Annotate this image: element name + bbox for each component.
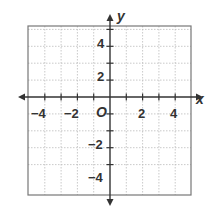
coordinate-plane: y x O −4 −2 2 4 4 2 −2 −4 [0, 0, 211, 212]
origin-label: O [96, 104, 107, 120]
x-tick-label: −4 [31, 106, 47, 121]
arrow-down-icon [107, 199, 114, 206]
y-axis-label: y [116, 8, 126, 24]
y-tick-label: −4 [88, 170, 104, 185]
x-axis-label: x [195, 91, 205, 107]
y-tick-label: 2 [97, 69, 104, 84]
x-tick-label: 2 [138, 106, 145, 121]
arrow-up-icon [107, 14, 114, 21]
arrow-left-icon [18, 94, 25, 101]
x-tick-label: 4 [170, 106, 178, 121]
x-tick-label: −2 [64, 106, 79, 121]
y-tick-label: −2 [88, 137, 103, 152]
y-tick-label: 4 [97, 36, 105, 51]
